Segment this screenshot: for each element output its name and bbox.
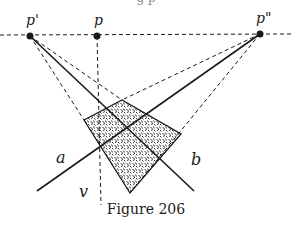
horizon-line	[0, 34, 292, 35]
dashed-p2-top	[122, 34, 260, 100]
label-p-double-prime: p"	[256, 10, 271, 26]
figure-caption: Figure 206	[0, 201, 292, 217]
point-p	[94, 33, 101, 40]
label-v: v	[79, 182, 88, 201]
point-p-prime	[27, 33, 34, 40]
dashed-p-prime-to-top	[30, 36, 122, 100]
point-p-double-prime	[257, 31, 264, 38]
dashed-p2-bottom	[130, 34, 260, 193]
label-p-prime: p'	[26, 12, 39, 28]
line-b	[30, 36, 194, 191]
label-b: b	[191, 150, 201, 169]
label-a: a	[56, 148, 66, 167]
perspective-diagram	[0, 0, 292, 225]
label-p: p	[94, 12, 103, 28]
